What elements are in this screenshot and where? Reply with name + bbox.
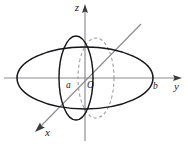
- y-axis-label: y: [173, 80, 179, 92]
- semi-axis-a-label: a: [66, 80, 71, 90]
- z-axis-label: z: [74, 1, 80, 13]
- x-axis-label: x: [44, 126, 50, 138]
- semi-axis-b-label: b: [153, 81, 158, 91]
- ellipsoid-figure: z y x a O b: [0, 0, 188, 144]
- origin-label: O: [87, 80, 94, 90]
- label-group: z y x a O b: [44, 1, 179, 138]
- ellipsoid-diagram-canvas: z y x a O b: [0, 0, 188, 144]
